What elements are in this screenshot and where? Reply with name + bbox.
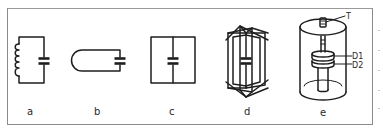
capacitor-icon: [115, 59, 126, 64]
label-b: b: [94, 106, 100, 117]
capacitor-icon: [39, 59, 50, 64]
capacitor-icon: [241, 59, 252, 64]
capacitor-icon: [168, 59, 179, 64]
scan-artifact: [378, 70, 380, 71]
annotation-t: T: [345, 12, 351, 21]
inductor-coil-icon: [15, 44, 19, 76]
panel-a-lc-circuit: [15, 37, 49, 83]
circuit-diagram: T D1 D2 a b c d e: [0, 0, 383, 130]
label-c: c: [169, 106, 175, 117]
panel-c-split-loop: [151, 37, 195, 83]
label-e: e: [320, 107, 326, 118]
label-a: a: [27, 106, 33, 117]
disk-d2: [312, 61, 334, 68]
label-d: d: [244, 106, 250, 117]
scan-artifact: [378, 90, 380, 91]
scan-artifact: [378, 30, 380, 31]
panel-e-cavity-resonator: T D1 D2: [300, 12, 363, 100]
annotation-d1: D1: [352, 52, 363, 61]
panel-b-loop: [72, 50, 126, 71]
annotation-d2: D2: [352, 61, 363, 70]
scan-artifact: [378, 50, 380, 51]
scan-artifact: [378, 108, 380, 109]
disk-d1: [312, 51, 334, 61]
panel-d-multi-loop: [226, 26, 268, 97]
